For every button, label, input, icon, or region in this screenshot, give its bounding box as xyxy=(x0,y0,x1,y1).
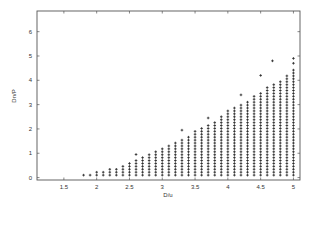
data-point xyxy=(246,133,249,136)
data-point xyxy=(279,133,282,136)
data-point xyxy=(259,153,262,156)
data-point xyxy=(272,110,275,113)
data-point xyxy=(240,110,243,113)
data-point xyxy=(161,153,164,156)
data-point xyxy=(246,130,249,133)
data-point xyxy=(220,162,223,165)
data-point xyxy=(292,72,295,75)
data-point xyxy=(292,124,295,127)
data-point xyxy=(128,171,131,174)
data-point xyxy=(213,153,216,156)
data-point xyxy=(227,139,230,142)
data-point xyxy=(181,150,184,153)
data-point xyxy=(286,86,289,89)
data-point xyxy=(292,171,295,174)
data-point xyxy=(240,121,243,124)
y-tick-label: 2 xyxy=(29,126,33,132)
data-point xyxy=(233,156,236,159)
data-point xyxy=(259,133,262,136)
data-point xyxy=(194,142,197,145)
data-point xyxy=(187,148,190,151)
data-point xyxy=(187,150,190,153)
data-point xyxy=(246,139,249,142)
data-point xyxy=(259,174,262,177)
data-point xyxy=(279,113,282,116)
data-point xyxy=(240,162,243,165)
data-point xyxy=(286,95,289,98)
data-point xyxy=(207,133,210,136)
data-point xyxy=(207,136,210,139)
data-point xyxy=(154,174,157,177)
data-point xyxy=(109,171,112,174)
data-point xyxy=(148,159,151,162)
data-point xyxy=(200,136,203,139)
data-point xyxy=(266,156,269,159)
data-point xyxy=(259,156,262,159)
data-point xyxy=(240,104,243,107)
data-point xyxy=(128,162,131,165)
data-point xyxy=(233,159,236,162)
data-point xyxy=(253,124,256,127)
data-point xyxy=(161,171,164,174)
data-point xyxy=(207,174,210,177)
data-point xyxy=(154,171,157,174)
data-point xyxy=(181,129,184,132)
data-point xyxy=(246,150,249,153)
data-point xyxy=(246,148,249,151)
data-point xyxy=(174,156,177,159)
data-point xyxy=(292,92,295,95)
data-point xyxy=(213,139,216,142)
data-point xyxy=(292,174,295,177)
data-point xyxy=(220,124,223,127)
data-point xyxy=(240,142,243,145)
data-point xyxy=(233,174,236,177)
data-point xyxy=(292,80,295,83)
data-point xyxy=(148,162,151,165)
data-point xyxy=(227,130,230,133)
data-point xyxy=(279,159,282,162)
data-point xyxy=(233,165,236,168)
data-point xyxy=(141,171,144,174)
data-point xyxy=(266,92,269,95)
data-point xyxy=(194,133,197,136)
data-point xyxy=(200,148,203,151)
data-point xyxy=(253,115,256,118)
data-point xyxy=(272,124,275,127)
data-point xyxy=(253,139,256,142)
x-axis-label: D/u xyxy=(163,192,172,198)
data-point xyxy=(200,156,203,159)
data-point xyxy=(246,127,249,130)
data-point xyxy=(240,150,243,153)
data-points xyxy=(82,57,294,176)
data-point xyxy=(272,156,275,159)
data-point xyxy=(286,104,289,107)
data-point xyxy=(194,174,197,177)
data-point xyxy=(246,165,249,168)
data-point xyxy=(292,107,295,110)
x-tick-label: 5 xyxy=(292,184,296,190)
data-point xyxy=(292,83,295,86)
data-point xyxy=(187,142,190,145)
data-point xyxy=(200,150,203,153)
data-point xyxy=(279,171,282,174)
data-point xyxy=(272,150,275,153)
data-point xyxy=(286,127,289,130)
data-point xyxy=(227,124,230,127)
data-point xyxy=(240,113,243,116)
data-point xyxy=(154,162,157,165)
data-point xyxy=(220,127,223,130)
data-point xyxy=(253,98,256,101)
data-point xyxy=(259,139,262,142)
data-point xyxy=(259,136,262,139)
data-point xyxy=(220,168,223,171)
data-point xyxy=(227,159,230,162)
data-point xyxy=(240,145,243,148)
data-point xyxy=(266,95,269,98)
data-point xyxy=(253,107,256,110)
data-point xyxy=(233,113,236,116)
data-point xyxy=(259,159,262,162)
data-point xyxy=(286,156,289,159)
data-point xyxy=(148,171,151,174)
data-point xyxy=(148,174,151,177)
data-point xyxy=(266,168,269,171)
